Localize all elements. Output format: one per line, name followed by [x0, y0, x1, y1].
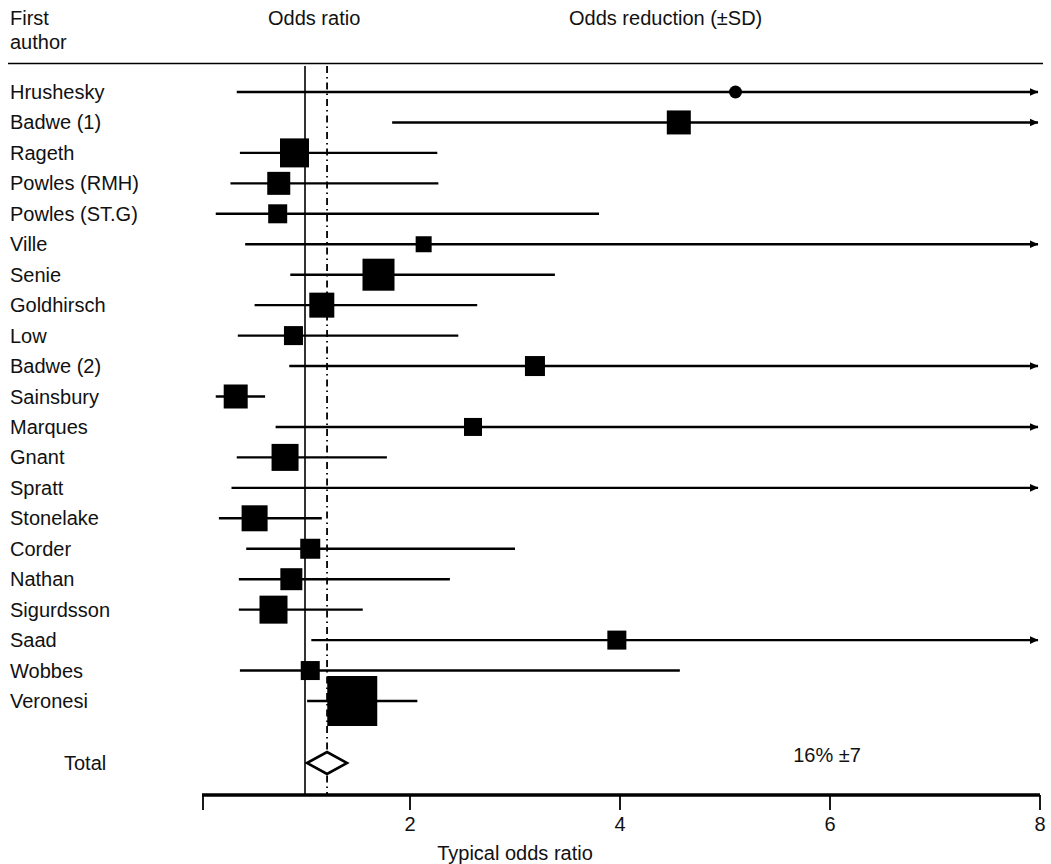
- forest-row: [289, 356, 1038, 376]
- point-estimate-square: [224, 385, 248, 409]
- forest-row: [246, 539, 515, 559]
- point-estimate-square: [309, 293, 334, 318]
- forest-row: [219, 505, 322, 531]
- plot-frame: [8, 64, 1043, 811]
- point-estimate-square: [268, 204, 287, 223]
- point-estimate-square: [280, 138, 309, 167]
- forest-row: [237, 444, 387, 471]
- point-estimate-square: [525, 356, 545, 376]
- forest-row: [276, 418, 1038, 436]
- point-estimate-square: [260, 596, 288, 624]
- point-estimate-square: [607, 631, 626, 650]
- point-estimate-square: [416, 236, 432, 252]
- plot-rows: [216, 86, 1038, 775]
- point-estimate-square: [267, 172, 290, 195]
- point-estimate-circle: [729, 86, 742, 99]
- point-estimate-square: [242, 505, 268, 531]
- forest-row: [290, 259, 555, 291]
- forest-row: [216, 385, 265, 409]
- point-estimate-square: [667, 110, 691, 134]
- forest-row: [311, 631, 1038, 650]
- point-estimate-square: [272, 444, 299, 471]
- point-estimate-square: [363, 259, 395, 291]
- forest-row: [239, 568, 450, 590]
- point-estimate-square: [280, 568, 302, 590]
- point-estimate-square: [464, 418, 482, 436]
- forest-row: [240, 661, 680, 680]
- forest-row: [216, 204, 599, 223]
- forest-row: [392, 110, 1038, 134]
- point-estimate-square: [327, 676, 377, 726]
- forest-row: [245, 236, 1038, 252]
- forest-row: [239, 596, 363, 624]
- forest-row: [230, 172, 438, 195]
- forest-row: [240, 138, 437, 167]
- total-summary-diamond: [307, 752, 347, 774]
- forest-row: [307, 676, 417, 726]
- point-estimate-square: [284, 326, 303, 345]
- forest-row: [237, 86, 1038, 99]
- point-estimate-square: [301, 661, 320, 680]
- forest-row: [238, 326, 458, 345]
- point-estimate-square: [300, 539, 320, 559]
- forest-row: [255, 293, 478, 318]
